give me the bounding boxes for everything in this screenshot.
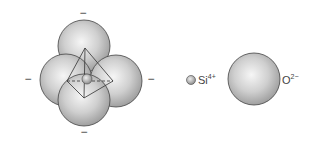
silicon-charge: 4+ xyxy=(208,73,216,80)
charge-minus-top: − xyxy=(79,6,86,20)
charge-minus-left: − xyxy=(24,72,31,86)
charge-minus-right: − xyxy=(147,72,154,86)
svg-text:Si4+: Si4+ xyxy=(198,73,216,86)
sio4-tetrahedron xyxy=(40,20,142,126)
silicon-ion-center xyxy=(82,74,92,84)
silicate-tetrahedron-diagram: − − − − Si4+ O2− xyxy=(0,0,319,151)
oxygen-ion-icon xyxy=(228,53,280,105)
svg-text:O2−: O2− xyxy=(282,73,299,86)
legend-silicon: Si4+ xyxy=(187,73,216,86)
silicon-symbol: Si xyxy=(198,74,208,86)
oxygen-charge: 2− xyxy=(291,73,299,80)
silicon-ion-icon xyxy=(187,76,196,85)
legend-oxygen: O2− xyxy=(228,53,299,105)
charge-minus-bottom: − xyxy=(80,125,87,139)
